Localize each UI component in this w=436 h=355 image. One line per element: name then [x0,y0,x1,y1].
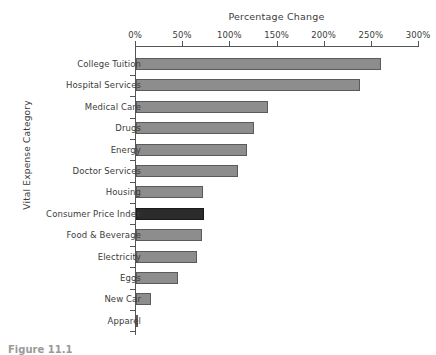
bar[interactable] [136,186,203,198]
y-tick-mark [130,246,135,247]
bar-chart-figure: Percentage Change 0%50%100%150%200%250%3… [0,0,436,355]
y-category-label: Energy [11,145,141,155]
bar[interactable] [136,272,178,284]
y-tick-mark [130,139,135,140]
x-tick-label: 250% [358,30,383,40]
y-tick-mark [130,96,135,97]
x-tick-label: 100% [217,30,242,40]
y-category-label: College Tuition [11,59,141,69]
y-tick-mark [130,310,135,311]
y-tick-mark [130,331,135,332]
x-tick-label: 300% [406,30,431,40]
y-category-label: Doctor Services [11,166,141,176]
y-tick-mark [130,160,135,161]
y-category-label: Electricity [11,252,141,262]
y-category-label: Food & Beverage [11,230,141,240]
x-tick-mark [371,41,372,47]
x-tick-label: 150% [264,30,289,40]
x-tick-mark [182,41,183,47]
bar[interactable] [136,79,360,91]
y-category-label: Eggs [11,273,141,283]
y-category-label: Apparel [11,316,141,326]
x-tick-mark [229,41,230,47]
bar[interactable] [136,58,381,70]
y-tick-mark [130,118,135,119]
bar[interactable] [136,251,197,263]
y-tick-mark [130,224,135,225]
x-tick-label: 0% [128,30,142,40]
x-tick-mark [277,41,278,47]
x-tick-mark [135,41,136,47]
y-category-label: Hospital Services [11,80,141,90]
x-tick-mark [418,41,419,47]
bar[interactable] [136,101,268,113]
figure-caption: Figure 11.1 [8,344,72,355]
y-category-label: Drugs [11,123,141,133]
y-category-label: Consumer Price Index [11,209,141,219]
y-category-label: Medical Care [11,102,141,112]
x-tick-label: 200% [311,30,336,40]
bar[interactable] [136,165,238,177]
y-tick-mark [130,182,135,183]
x-tick-label: 50% [173,30,192,40]
bar[interactable] [136,144,247,156]
bar[interactable] [136,122,254,134]
y-category-label: New Car [11,294,141,304]
chart-title: Percentage Change [135,11,418,22]
y-tick-mark [130,203,135,204]
bar[interactable] [136,229,202,241]
y-category-label: Housing [11,187,141,197]
y-tick-mark [130,267,135,268]
bar[interactable] [136,208,204,220]
x-tick-mark [324,41,325,47]
y-tick-mark [130,75,135,76]
y-tick-mark [130,289,135,290]
